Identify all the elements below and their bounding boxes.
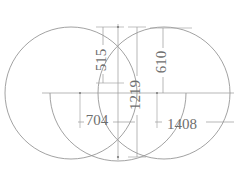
dimension-label-1219: 1219 bbox=[127, 80, 143, 110]
dimension-label-610: 610 bbox=[153, 51, 169, 74]
bottom-intersection-node bbox=[117, 156, 119, 158]
dimension-label-704: 704 bbox=[86, 112, 109, 128]
top-intersection-node bbox=[117, 26, 119, 28]
drawing-svg: 515 610 1219 704 1408 bbox=[0, 0, 240, 179]
left-arc-node bbox=[79, 92, 81, 94]
technical-drawing-canvas: 515 610 1219 704 1408 bbox=[0, 0, 240, 179]
dimension-label-515: 515 bbox=[93, 49, 109, 72]
right-arc-node bbox=[156, 92, 158, 94]
dimension-label-1408: 1408 bbox=[167, 116, 197, 132]
